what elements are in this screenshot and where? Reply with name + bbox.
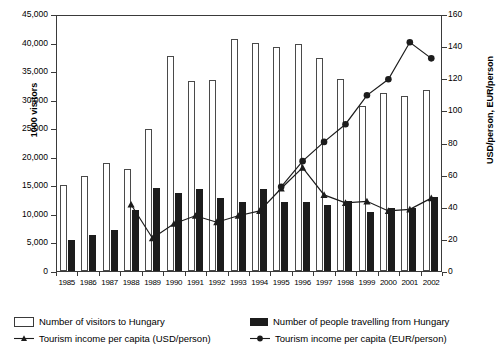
- y-tick-label-left: 15,000: [0, 180, 48, 190]
- y-tick-label-right: 160: [448, 9, 474, 19]
- solid-square-icon: [250, 318, 268, 326]
- y-tick-label-left: 40,000: [0, 38, 48, 48]
- line-series-overlay: [56, 15, 442, 272]
- x-tick-mark: [120, 272, 121, 276]
- x-tick-mark: [313, 272, 314, 276]
- legend-label: Tourism income per capita (EUR/person): [275, 333, 447, 344]
- marker-triangle[interactable]: [127, 201, 134, 208]
- x-tick-label: 1998: [335, 278, 356, 287]
- y-tick-mark-right: [442, 176, 447, 177]
- marker-triangle[interactable]: [428, 195, 435, 202]
- x-tick-mark: [185, 272, 186, 276]
- x-tick-mark: [99, 272, 100, 276]
- x-tick-label: 1995: [270, 278, 291, 287]
- marker-circle[interactable]: [342, 121, 349, 128]
- line-usd-per-capita: [131, 168, 431, 239]
- line-triangle-icon: [14, 334, 34, 343]
- x-tick-label: 2000: [378, 278, 399, 287]
- y-tick-label-left: 0: [0, 266, 48, 276]
- y-tick-label-left: 45,000: [0, 9, 48, 19]
- open-square-icon: [14, 317, 34, 327]
- marker-circle[interactable]: [385, 76, 392, 83]
- x-tick-mark: [163, 272, 164, 276]
- y-tick-mark-right: [442, 240, 447, 241]
- marker-circle[interactable]: [428, 55, 435, 62]
- x-tick-label: 1985: [56, 278, 77, 287]
- x-tick-mark: [442, 272, 443, 276]
- chart-root: 1000 visitors USD/person, EUR/person 05,…: [0, 0, 500, 354]
- y-tick-label-right: 60: [448, 170, 474, 180]
- x-tick-mark: [292, 272, 293, 276]
- x-tick-mark: [228, 272, 229, 276]
- y-tick-mark-right: [442, 144, 447, 145]
- x-tick-mark: [56, 272, 57, 276]
- y-axis-title-right: USD/person, EUR/person: [485, 40, 495, 180]
- x-tick-mark: [378, 272, 379, 276]
- x-tick-label: 1999: [356, 278, 377, 287]
- x-tick-label: 1994: [249, 278, 270, 287]
- y-tick-label-right: 20: [448, 234, 474, 244]
- y-tick-label-left: 25,000: [0, 123, 48, 133]
- y-tick-mark-right: [442, 79, 447, 80]
- x-tick-mark: [142, 272, 143, 276]
- marker-circle[interactable]: [321, 139, 328, 146]
- y-tick-label-left: 30,000: [0, 95, 48, 105]
- y-tick-label-left: 5,000: [0, 237, 48, 247]
- x-tick-mark: [335, 272, 336, 276]
- marker-circle[interactable]: [278, 184, 285, 191]
- x-tick-mark: [399, 272, 400, 276]
- marker-circle[interactable]: [299, 158, 306, 165]
- x-tick-label: 1990: [163, 278, 184, 287]
- x-tick-label: 1991: [185, 278, 206, 287]
- legend-label: Tourism income per capita (USD/person): [39, 333, 211, 344]
- line-eur-per-capita: [281, 42, 431, 187]
- y-tick-mark-right: [442, 15, 447, 16]
- x-tick-label: 1997: [313, 278, 334, 287]
- line-circle-icon: [250, 334, 270, 343]
- x-tick-mark: [206, 272, 207, 276]
- marker-triangle[interactable]: [192, 212, 199, 219]
- x-tick-mark: [421, 272, 422, 276]
- legend-label: Number of visitors to Hungary: [39, 316, 165, 327]
- legend-item-usd: Tourism income per capita (USD/person): [14, 333, 250, 344]
- x-tick-label: 2002: [420, 278, 441, 287]
- y-tick-mark-right: [442, 47, 447, 48]
- x-tick-label: 2001: [399, 278, 420, 287]
- y-tick-mark-right: [442, 111, 447, 112]
- y-tick-label-right: 100: [448, 105, 474, 115]
- y-tick-label-left: 35,000: [0, 66, 48, 76]
- x-tick-mark: [249, 272, 250, 276]
- y-tick-label-right: 140: [448, 41, 474, 51]
- x-tick-label: 1989: [142, 278, 163, 287]
- marker-triangle[interactable]: [170, 220, 177, 227]
- y-tick-label-right: 40: [448, 202, 474, 212]
- legend-item-eur: Tourism income per capita (EUR/person): [250, 333, 486, 344]
- y-tick-label-right: 120: [448, 73, 474, 83]
- legend-label: Number of people travelling from Hungary: [273, 316, 449, 327]
- x-tick-mark: [356, 272, 357, 276]
- y-tick-mark-right: [442, 208, 447, 209]
- x-tick-label: 1987: [99, 278, 120, 287]
- y-tick-label-right: 0: [448, 266, 474, 276]
- x-tick-label: 1992: [206, 278, 227, 287]
- legend-item-travellers: Number of people travelling from Hungary: [250, 316, 486, 327]
- y-tick-label-left: 10,000: [0, 209, 48, 219]
- marker-circle[interactable]: [407, 39, 414, 46]
- x-tick-mark: [270, 272, 271, 276]
- x-tick-mark: [77, 272, 78, 276]
- x-tick-label: 1996: [292, 278, 313, 287]
- x-tick-label: 1988: [120, 278, 141, 287]
- marker-circle[interactable]: [364, 92, 371, 99]
- marker-triangle[interactable]: [149, 235, 156, 242]
- x-tick-label: 1986: [77, 278, 98, 287]
- y-tick-label-right: 80: [448, 138, 474, 148]
- legend-item-visitors: Number of visitors to Hungary: [14, 316, 250, 327]
- x-tick-label: 1993: [228, 278, 249, 287]
- chart-legend: Number of visitors to Hungary Number of …: [14, 316, 486, 344]
- y-tick-label-left: 20,000: [0, 152, 48, 162]
- x-axis-labels: 1985198619871988198919901991199219931994…: [56, 278, 442, 287]
